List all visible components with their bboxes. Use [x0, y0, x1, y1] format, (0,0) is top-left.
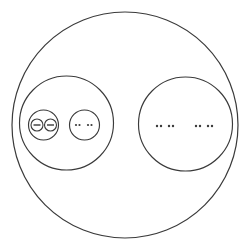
ellipsis-dot	[156, 125, 158, 127]
ellipsis-dot	[160, 125, 162, 127]
ellipsis-dot	[78, 124, 80, 126]
diagram-canvas	[0, 0, 247, 252]
ellipsis-dot	[168, 125, 170, 127]
left-inner-circle-b	[70, 110, 100, 140]
ellipsis-dot	[87, 124, 89, 126]
ellipsis-dot	[75, 124, 77, 126]
ellipsis-dot	[172, 125, 174, 127]
nested-circles-figure	[0, 0, 247, 252]
ellipsis-right-group-second	[195, 125, 213, 127]
ellipsis-dot	[199, 125, 201, 127]
ellipsis-dot	[90, 124, 92, 126]
right-group-circle	[139, 77, 233, 171]
ellipsis-dot	[195, 125, 197, 127]
ellipsis-dot	[207, 125, 209, 127]
outer-circle	[12, 12, 238, 238]
ellipsis-inner-left	[75, 124, 93, 126]
ellipsis-right-group-first	[156, 125, 174, 127]
ellipsis-dot	[211, 125, 213, 127]
